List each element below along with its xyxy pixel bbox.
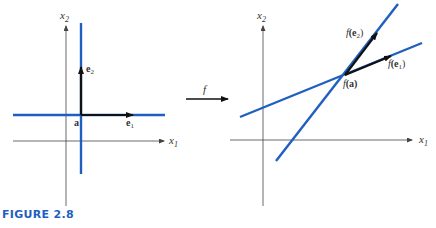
f-a-label: f(a) (343, 78, 357, 90)
figure-canvas: x2 x1 a e1 e2 f x2 x1 f(a) f(e1) f(e2) (0, 0, 436, 228)
left-x2-label: x2 (59, 9, 69, 24)
map-arrow: f (186, 83, 228, 99)
e2-label: e2 (86, 63, 94, 76)
right-x1-label: x1 (418, 133, 428, 148)
left-x1-label: x1 (168, 134, 178, 149)
right-x2-label: x2 (256, 9, 266, 24)
left-panel: x2 x1 a e1 e2 (13, 9, 178, 206)
image-of-horizontal-line (240, 43, 422, 117)
e1-label: e1 (126, 117, 134, 130)
map-f-label: f (203, 83, 208, 95)
right-panel: x2 x1 f(a) f(e1) f(e2) (230, 4, 428, 206)
figure-caption: FIGURE 2.8 (2, 208, 74, 221)
f-e2-label: f(e2) (346, 27, 363, 40)
point-a-label: a (74, 117, 79, 128)
image-of-vertical-line (276, 4, 398, 161)
f-e1-label: f(e1) (388, 58, 405, 71)
